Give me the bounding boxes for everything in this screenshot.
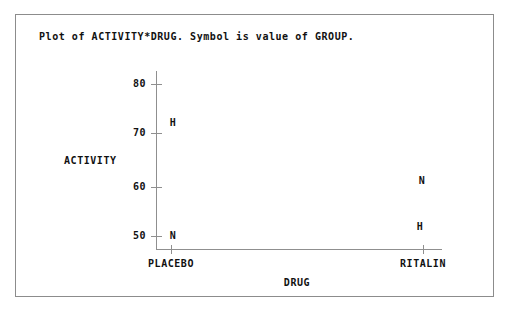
x-axis-tick-ritalin — [423, 245, 424, 254]
data-point-placebo-h: H — [170, 118, 177, 128]
y-axis-tick-70 — [151, 133, 162, 134]
y-axis-tick-label-70: 70 — [106, 127, 146, 138]
y-axis-title: ACTIVITY — [64, 155, 117, 166]
y-axis-tick-label-80: 80 — [106, 78, 146, 89]
page-title: Plot of ACTIVITY*DRUG. Symbol is value o… — [39, 31, 354, 42]
y-axis-line — [156, 71, 157, 250]
y-axis-tick-60 — [151, 187, 162, 188]
y-axis-tick-80 — [151, 84, 162, 85]
x-axis-tick-label-placebo: PLACEBO — [148, 258, 194, 269]
x-axis-title: DRUG — [284, 277, 310, 288]
data-point-ritalin-h: H — [417, 222, 424, 232]
y-axis-tick-50 — [151, 236, 162, 237]
data-point-ritalin-n: N — [419, 176, 426, 186]
x-axis-tick-placebo — [171, 245, 172, 254]
y-axis-tick-label-50: 50 — [106, 230, 146, 241]
x-axis-tick-label-ritalin: RITALIN — [400, 258, 446, 269]
data-point-placebo-n: N — [170, 231, 177, 241]
y-axis-tick-label-60: 60 — [106, 181, 146, 192]
x-axis-line — [156, 249, 442, 250]
plot-frame: Plot of ACTIVITY*DRUG. Symbol is value o… — [15, 14, 494, 297]
